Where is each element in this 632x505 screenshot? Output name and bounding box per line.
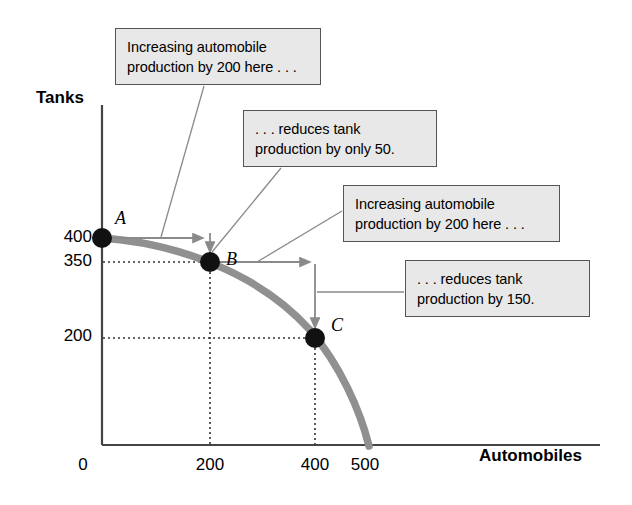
data-point-c [305,328,325,348]
x-tick-label-0: 0 [55,455,111,475]
leader-line-callout-1 [161,86,204,237]
y-tick-label-200: 200 [36,326,92,346]
callout-increasing-automobile-production-2: Increasing automobile production by 200 … [343,185,560,242]
x-tick-label-200: 200 [182,455,238,475]
x-tick-label-500: 500 [337,455,393,475]
callout-reduces-tank-production-50: . . . reduces tank production by only 50… [243,110,437,167]
data-point-b [200,252,220,272]
leader-line-callout-2 [212,168,281,252]
point-label-b: B [226,249,237,270]
x-tick-label-400: 400 [287,455,343,475]
leader-line-callout-3 [257,211,342,262]
x-axis-title: Automobiles [479,446,582,466]
callout-reduces-tank-production-150: . . . reduces tank production by 150. [405,260,590,317]
y-tick-label-400: 400 [36,227,92,247]
callout-increasing-automobile-production-1: Increasing automobile production by 200 … [115,28,321,85]
ppf-chart-figure: Tanks Automobiles 400 350 200 0 200 400 … [0,0,632,505]
point-label-a: A [115,208,126,229]
y-axis-title: Tanks [36,88,84,108]
point-label-c: C [331,315,343,336]
data-point-a [92,228,112,248]
y-tick-label-350: 350 [36,251,92,271]
